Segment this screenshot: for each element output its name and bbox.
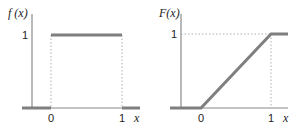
x-tick-1: 1: [119, 112, 125, 124]
y-axis-label: f (x): [8, 6, 28, 20]
y-tick-1: 1: [171, 28, 177, 40]
x-tick-1: 1: [268, 112, 274, 124]
cdf-line: [170, 34, 288, 108]
y-axis-label: F(x): [158, 6, 180, 20]
cdf-plot: F(x) 1 0 1 x: [158, 6, 289, 125]
x-axis-label: x: [282, 111, 289, 125]
y-tick-1: 1: [22, 29, 28, 41]
x-tick-0: 0: [198, 112, 204, 124]
figure: f (x) 1 0 1 x F(x) 1 0 1 x: [0, 0, 305, 133]
x-axis-label: x: [133, 111, 140, 125]
pdf-plot: f (x) 1 0 1 x: [8, 6, 140, 125]
x-tick-0: 0: [48, 112, 54, 124]
